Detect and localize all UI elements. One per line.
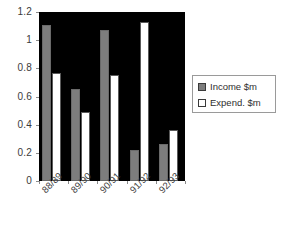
y-tick-label: 0.4 (0, 120, 32, 130)
y-tick-label: 1.2 (0, 7, 32, 17)
legend-label-income: Income $m (210, 82, 257, 92)
chart-legend: Income $m Expend. $m (192, 75, 276, 113)
bar-group (68, 12, 97, 181)
x-tick-mark (39, 181, 40, 184)
y-tick-label: 0.6 (0, 92, 32, 102)
bar-group (39, 12, 68, 181)
bar-expend (110, 75, 119, 181)
y-tick-label: 1 (0, 35, 32, 45)
legend-entry-expend: Expend. $m (198, 96, 271, 110)
x-tick-mark (185, 181, 186, 184)
legend-label-expend: Expend. $m (210, 98, 261, 108)
bar-expend (52, 73, 61, 181)
bar-expend (140, 22, 149, 181)
bar-chart: 1.210.80.60.40.20 88/8989/9090/9191/9292… (0, 0, 281, 226)
bar-group (156, 12, 185, 181)
income-swatch-icon (198, 83, 206, 91)
y-tick-label: 0.8 (0, 63, 32, 73)
expend-swatch-icon (198, 99, 206, 107)
plot-area (39, 12, 185, 181)
x-tick-mark (156, 181, 157, 184)
bar-income (42, 25, 51, 181)
y-axis: 1.210.80.60.40.20 (0, 0, 36, 226)
bar-group (97, 12, 126, 181)
x-axis: 88/8989/9090/9191/9292/93 (39, 181, 185, 226)
x-tick-mark (68, 181, 69, 184)
x-tick-mark (97, 181, 98, 184)
bar-group (127, 12, 156, 181)
y-tick-label: 0 (0, 176, 32, 186)
legend-entry-income: Income $m (198, 80, 271, 94)
x-tick-mark (127, 181, 128, 184)
bar-income (100, 30, 109, 181)
bar-income (71, 89, 80, 181)
y-tick-label: 0.2 (0, 148, 32, 158)
